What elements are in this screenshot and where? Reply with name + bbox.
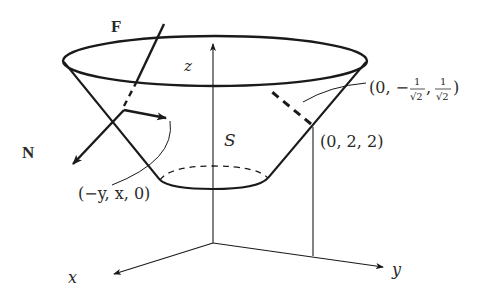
label-point: (0, 2, 2): [320, 132, 383, 151]
label-x: x: [68, 268, 77, 287]
f-vector-solid: [136, 24, 164, 83]
axes: [114, 44, 383, 274]
label-z: z: [183, 57, 192, 75]
label-n: N: [22, 143, 35, 162]
right-normal-vector: [272, 92, 311, 124]
label-y: y: [391, 260, 402, 279]
top-rim: [63, 36, 367, 86]
vectors: [73, 24, 366, 185]
y-axis: [213, 243, 383, 267]
label-s: S: [224, 130, 236, 150]
n-vector: [73, 110, 124, 164]
label-f: F: [111, 17, 121, 36]
svg-text:√2: √2: [436, 91, 449, 102]
svg-text:1: 1: [414, 76, 420, 87]
svg-text:(0, −: (0, −: [369, 78, 409, 97]
svg-text:): ): [453, 78, 459, 97]
bottom-rim-front: [160, 178, 268, 189]
cone-surface: [63, 36, 367, 189]
svg-text:,: ,: [426, 78, 431, 97]
x-axis: [114, 243, 213, 274]
bottom-rim-back: [160, 166, 268, 180]
f-vector-hidden: [124, 83, 136, 106]
svg-text:1: 1: [440, 76, 446, 87]
tangent-vector: [124, 110, 166, 118]
label-normal-vector: (0, − 1 √2 , 1 √2 ): [369, 76, 459, 102]
cone-surface-diagram: F N z S x y (−y, x, 0) (0, 2, 2) (0, − 1…: [0, 0, 499, 303]
svg-text:√2: √2: [410, 91, 423, 102]
label-tangent-vector: (−y, x, 0): [78, 184, 150, 203]
